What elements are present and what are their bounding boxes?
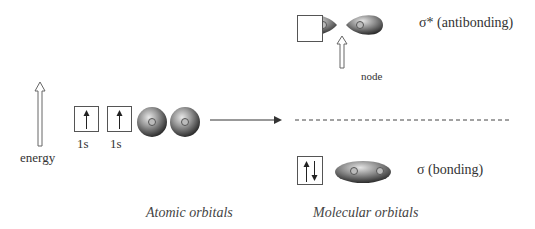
molecular-orbitals-caption: Molecular orbitals xyxy=(313,205,418,221)
node-arrow-icon xyxy=(337,36,347,68)
orbital-box-1s-a xyxy=(74,106,99,132)
spin-up-arrow-icon xyxy=(108,107,133,133)
transition-arrow-icon xyxy=(210,116,282,124)
energy-label: energy xyxy=(20,150,55,166)
antibonding-label: σ* (antibonding) xyxy=(419,15,513,31)
atomic-orbitals-caption: Atomic orbitals xyxy=(146,205,233,221)
orbital-label-1s-a: 1s xyxy=(77,136,89,152)
node-label: node xyxy=(361,70,382,82)
spin-pair-arrows-icon xyxy=(298,157,324,186)
energy-arrow-icon xyxy=(35,82,45,146)
orbital-label-1s-b: 1s xyxy=(110,136,122,152)
atomic-orbital-spheres xyxy=(137,107,200,137)
orbital-box-bonding xyxy=(297,156,323,185)
spin-up-arrow-icon xyxy=(75,107,100,133)
bonding-label: σ (bonding) xyxy=(417,162,483,178)
bonding-ellipse xyxy=(335,161,391,183)
orbital-box-1s-b xyxy=(107,106,132,132)
orbital-box-antibonding xyxy=(297,15,323,42)
